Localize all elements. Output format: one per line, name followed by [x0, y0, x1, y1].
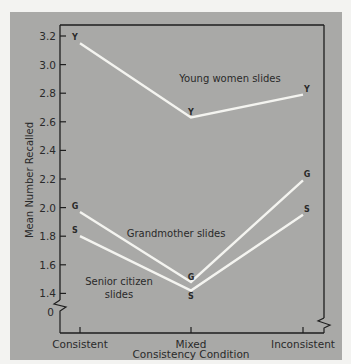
y-tick-label: 2.8	[39, 87, 56, 99]
marker-g: G	[304, 170, 311, 179]
annotation-grandmother: Grandmother slides	[127, 228, 226, 239]
marker-y: Y	[71, 33, 78, 42]
x-tick-consistent: Consistent	[52, 338, 108, 350]
y-ticks: 1.41.61.82.02.22.42.62.83.03.2	[39, 30, 66, 299]
y-tick-label: 2.4	[39, 144, 56, 156]
marker-g: G	[72, 202, 79, 211]
y-tick-zero: 0	[47, 306, 54, 318]
y-tick-label: 2.2	[39, 173, 56, 185]
y-tick-label: 2.6	[39, 116, 56, 128]
annotation-senior-citizen-line2: slides	[105, 289, 133, 300]
line-chart: 1.41.61.82.02.22.42.62.83.03.2 YYYGGGSSS…	[0, 0, 351, 364]
x-ticks	[80, 327, 303, 333]
y-tick-label: 1.4	[39, 287, 56, 299]
y-tick-label: 3.0	[39, 59, 56, 71]
marker-s: S	[304, 205, 310, 214]
x-axis-label: Consistency Condition	[133, 348, 250, 360]
y-tick-label: 1.6	[39, 259, 56, 271]
marker-g: G	[188, 273, 195, 282]
marker-s: S	[188, 292, 194, 301]
marker-s: S	[72, 226, 78, 235]
right-axis-break	[318, 318, 330, 333]
y-tick-label: 3.2	[39, 30, 56, 42]
y-axis-label: Mean Number Recalled	[24, 122, 35, 238]
y-axis-break	[54, 300, 66, 333]
y-tick-label: 2.0	[39, 202, 56, 214]
marker-y: Y	[303, 85, 310, 94]
x-tick-inconsistent: Inconsistent	[271, 338, 335, 350]
annotation-young-women: Young women slides	[178, 73, 280, 84]
y-tick-label: 1.8	[39, 230, 56, 242]
marker-y: Y	[187, 108, 194, 117]
annotation-senior-citizen-line1: Senior citizen	[85, 276, 153, 287]
